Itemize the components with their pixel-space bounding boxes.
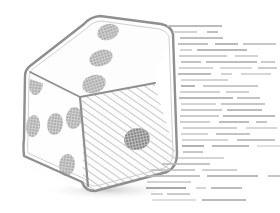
illustration-canvas: Isometric line drawing of a single six-s… [0, 0, 280, 213]
dice-illustration: Isometric line drawing of a single six-s… [0, 0, 280, 213]
